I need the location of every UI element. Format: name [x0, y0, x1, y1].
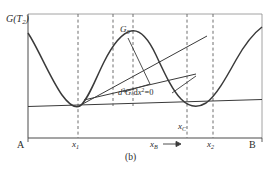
- tick-label-xb-sub: B: [154, 144, 158, 150]
- common-tangent-line: [28, 100, 262, 107]
- curve-label-g0-sub: 0: [127, 29, 130, 35]
- y-axis-label: G(T2): [6, 14, 29, 24]
- tick-label-x2-sub: 2: [211, 144, 214, 150]
- tick-label-x1-sub: 1: [76, 144, 79, 150]
- axis-label-a: A: [17, 140, 24, 150]
- tick-label-xb: xB: [150, 140, 158, 149]
- tick-label-xc-sub: C: [182, 126, 186, 132]
- right-arrow-icon: [176, 141, 181, 146]
- y-axis-label-t-sub: 2: [22, 18, 25, 25]
- tick-label-x1: x1: [72, 140, 79, 149]
- free-energy-figure: G(T2) G0 d2G/dx2=0 xC A B x1 xB x2 (b): [0, 0, 272, 169]
- y-axis-label-paren-close: ): [26, 13, 29, 24]
- tick-label-xc: xC: [178, 122, 186, 131]
- figure-caption: (b): [125, 153, 136, 163]
- curve-label-g0-main: G: [120, 24, 127, 34]
- eqn-equals-zero: =0: [144, 87, 153, 97]
- eqn-sup1: 2: [122, 87, 125, 93]
- inflection-equation-label: d2G/dx2=0: [118, 88, 153, 97]
- curve-label-g0: G0: [120, 25, 130, 34]
- eqn-slash: /d: [131, 87, 138, 97]
- axis-label-b: B: [249, 140, 256, 150]
- tick-label-x2: x2: [207, 140, 214, 149]
- plot-svg: [0, 0, 272, 169]
